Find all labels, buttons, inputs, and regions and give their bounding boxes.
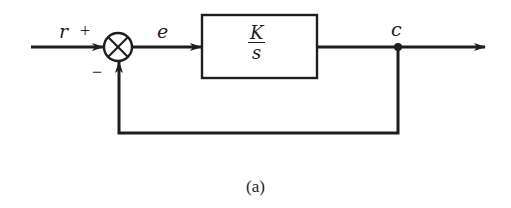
input-signal-label: r (59, 22, 68, 41)
denominator: s (248, 43, 265, 63)
error-signal-label: e (157, 22, 168, 41)
output-signal-label: c (391, 20, 402, 39)
summing-junction (104, 33, 132, 61)
numerator: K (248, 24, 265, 43)
plus-sign: + (80, 22, 90, 40)
transfer-function: K s (248, 24, 265, 63)
minus-sign: − (92, 63, 102, 81)
figure-caption: (a) (0, 177, 511, 197)
